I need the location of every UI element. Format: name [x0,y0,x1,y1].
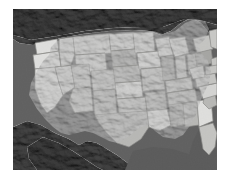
map-layers [13,9,217,170]
us-relief-map-svg [13,9,217,170]
us-relief-map-figure: Shaded relief map of the contiguous Unit… [13,9,217,170]
page-root: Shaded relief map of the contiguous Unit… [0,0,230,176]
film-grain-overlay [13,9,217,170]
